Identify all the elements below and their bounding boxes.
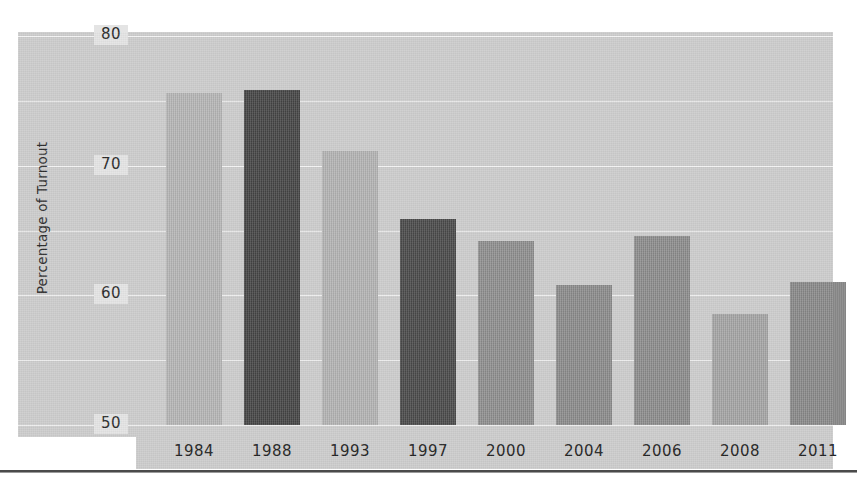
x-tick-label-2008: 2008 <box>701 442 779 460</box>
bar-2006 <box>634 236 690 425</box>
x-tick-label-2011: 2011 <box>779 442 857 460</box>
x-axis-tick-labels: 198419881993199720002004200620082011 <box>18 425 833 469</box>
x-tick-label-2004: 2004 <box>545 442 623 460</box>
bar-1984 <box>166 93 222 425</box>
bar-1997 <box>400 219 456 425</box>
y-tick-label-70: 70 <box>94 155 128 175</box>
y-tick-label-60: 60 <box>94 284 128 304</box>
bar-series <box>18 32 833 469</box>
chart-page: 80706050 Percentage of Turnout 198419881… <box>0 0 857 492</box>
x-tick-label-1984: 1984 <box>155 442 233 460</box>
x-tick-label-2000: 2000 <box>467 442 545 460</box>
bar-2008 <box>712 314 768 426</box>
bar-1988 <box>244 90 300 425</box>
scan-artifact-left <box>0 437 136 472</box>
x-tick-label-1993: 1993 <box>311 442 389 460</box>
y-axis-title: Percentage of Turnout <box>34 108 50 328</box>
x-tick-label-2006: 2006 <box>623 442 701 460</box>
bar-2004 <box>556 285 612 425</box>
bar-1993 <box>322 151 378 425</box>
y-tick-label-80: 80 <box>94 25 128 45</box>
bar-2000 <box>478 241 534 425</box>
bar-2011 <box>790 282 846 425</box>
x-tick-label-1988: 1988 <box>233 442 311 460</box>
page-bottom-rule-shadow <box>0 472 857 473</box>
plot-area: 80706050 Percentage of Turnout 198419881… <box>18 32 833 469</box>
x-tick-label-1997: 1997 <box>389 442 467 460</box>
